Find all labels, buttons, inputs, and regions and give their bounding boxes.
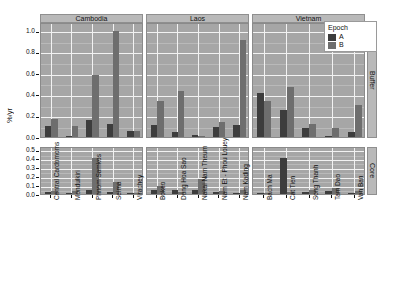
bar-group: [213, 23, 226, 137]
y-tick-label: 0.4: [14, 156, 35, 163]
bar-epoch-a: [280, 158, 287, 194]
x-tick-label: Phnom Samkos: [95, 154, 102, 200]
legend-title: Epoch: [328, 24, 373, 32]
bar-epoch-b: [92, 75, 98, 137]
x-tick-label: Tam Dao: [334, 174, 341, 200]
bar-group: [172, 23, 185, 137]
x-tick-mark: [50, 195, 51, 198]
x-tick-mark: [156, 195, 157, 198]
bar-epoch-b: [72, 126, 78, 137]
bar-epoch-b: [309, 124, 316, 137]
bar-epoch-a: [325, 136, 332, 137]
bar-group: [86, 23, 99, 137]
y-tick-mark: [36, 117, 39, 118]
y-tick-label: 1.0: [14, 28, 35, 35]
bar-epoch-b: [178, 91, 184, 137]
x-tick-mark: [239, 195, 240, 198]
x-tick-label: Nakai Nam Theum: [201, 146, 208, 200]
x-tick-mark: [286, 195, 287, 198]
y-tick-mark: [36, 177, 39, 178]
bar-epoch-b: [134, 131, 140, 137]
bar-epoch-b: [240, 40, 246, 137]
x-tick-label: Bach Ma: [266, 174, 273, 200]
y-tick-label: 0.6: [14, 71, 35, 78]
bar-epoch-b: [264, 101, 271, 137]
y-tick-mark: [36, 159, 39, 160]
legend-label-a: A: [339, 33, 344, 41]
legend-entry-b: B: [328, 41, 373, 49]
y-tick-label: 0.5: [14, 147, 35, 154]
x-tick-label: Nam Et - Phou Louey: [221, 138, 228, 200]
y-tick-label: 0.4: [14, 92, 35, 99]
bar-epoch-b: [113, 31, 119, 137]
x-tick-label: Central Cardomoms: [53, 142, 60, 200]
y-tick-mark: [36, 32, 39, 33]
x-tick-mark: [112, 195, 113, 198]
bar-group: [257, 23, 271, 137]
legend-swatch-a: [328, 34, 336, 41]
y-tick-mark: [36, 168, 39, 169]
x-tick-mark: [309, 195, 310, 198]
y-tick-label: 0.1: [14, 183, 35, 190]
bar-group: [280, 23, 294, 137]
legend-swatch-b: [328, 42, 336, 49]
bar-epoch-b: [332, 128, 339, 137]
y-tick-label: 0.2: [14, 174, 35, 181]
bar-group: [302, 23, 316, 137]
y-tick-mark: [36, 138, 39, 139]
x-tick-mark: [331, 195, 332, 198]
bar-group: [192, 23, 205, 137]
x-tick-label: Nam Kading: [242, 164, 249, 200]
bar-epoch-a: [302, 128, 309, 137]
x-tick-label: Bokeo: [159, 182, 166, 200]
bar-epoch-b: [198, 136, 204, 137]
panel-buffer-cambodia: [40, 23, 143, 138]
x-tick-mark: [198, 195, 199, 198]
bar-group: [233, 23, 246, 137]
y-tick-mark: [36, 53, 39, 54]
x-tick-label: Song Thanh: [312, 165, 319, 200]
x-tick-mark: [133, 195, 134, 198]
x-tick-label: Mondulkiri: [74, 170, 81, 200]
column-strip-cambodia: Cambodia: [40, 14, 143, 23]
bar-epoch-a: [348, 193, 355, 194]
x-tick-mark: [71, 195, 72, 198]
chart-root: %/yr CambodiaLaosVietnamBufferCore0.00.2…: [0, 0, 402, 288]
bar-epoch-a: [348, 132, 355, 137]
bar-epoch-a: [280, 110, 287, 137]
bar-epoch-a: [302, 192, 309, 194]
bar-epoch-a: [257, 193, 264, 194]
legend: Epoch A B: [324, 21, 377, 52]
bar-group: [107, 23, 120, 137]
x-tick-mark: [177, 195, 178, 198]
x-tick-label: Virachey: [136, 175, 143, 200]
x-tick-label: Seima: [115, 182, 122, 200]
bar-epoch-b: [355, 105, 362, 137]
x-tick-mark: [263, 195, 264, 198]
y-tick-mark: [36, 74, 39, 75]
bar-epoch-b: [51, 119, 57, 137]
bar-epoch-a: [257, 93, 264, 137]
y-tick-mark: [36, 195, 39, 196]
y-tick-label: 0.2: [14, 113, 35, 120]
row-strip-core: Core: [367, 147, 377, 195]
legend-label-b: B: [339, 41, 344, 49]
x-tick-label: Cat Tien: [289, 176, 296, 200]
bar-epoch-b: [219, 122, 225, 137]
x-tick-mark: [354, 195, 355, 198]
bar-epoch-a: [325, 191, 332, 194]
y-tick-label: 0.0: [14, 192, 35, 199]
x-tick-mark: [92, 195, 93, 198]
column-strip-laos: Laos: [146, 14, 249, 23]
y-tick-label: 0.0: [14, 135, 35, 142]
bar-group: [45, 23, 58, 137]
bar-group: [127, 23, 140, 137]
x-tick-mark: [218, 195, 219, 198]
y-tick-label: 0.3: [14, 165, 35, 172]
bar-group: [151, 23, 164, 137]
x-tick-label: Dong Hoa Sao: [180, 157, 187, 200]
legend-entry-a: A: [328, 33, 373, 41]
bar-group: [66, 23, 79, 137]
y-tick-mark: [36, 95, 39, 96]
bar-epoch-b: [287, 87, 294, 137]
